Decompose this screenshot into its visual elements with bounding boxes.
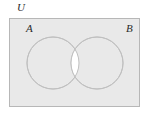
set-a-label: A bbox=[26, 23, 33, 34]
set-b-label: B bbox=[126, 23, 133, 34]
venn-diagram-figure bbox=[0, 0, 150, 118]
universe-label: U bbox=[17, 2, 25, 13]
